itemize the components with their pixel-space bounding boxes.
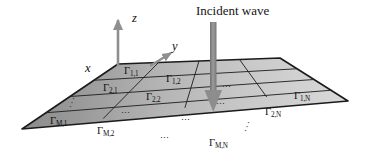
gamma-subscript-1-1: 1,1	[130, 70, 138, 78]
ellipsis-horizontal-row1-col3: ⋯	[222, 83, 232, 92]
figure-canvas: Incident wave z y x Γ1,1 Γ1,2 ⋯ Γ1,N Γ2,…	[0, 0, 366, 166]
cell-label-M-1: ΓM,1	[50, 116, 67, 127]
cell-label-2-N: Γ2,N	[265, 107, 281, 118]
gamma-subscript-M-1: M,1	[56, 120, 67, 128]
gamma-subscript-2-1: 2,1	[109, 87, 117, 95]
ellipsis-horizontal-row3-col3: ⋯	[181, 116, 191, 125]
gamma-subscript-M-N: M,N	[215, 142, 228, 150]
gamma-subscript-1-2: 1,2	[172, 78, 180, 86]
cell-label-2-2: Γ2,2	[146, 92, 160, 103]
ellipsis-horizontal-rowM-col3: ⋯	[160, 134, 170, 143]
x-axis-label: x	[85, 62, 91, 75]
cell-label-M-N: ΓM,N	[209, 138, 228, 149]
gamma-subscript-M-2: M,2	[103, 130, 114, 138]
gamma-subscript-2-N: 2,N	[271, 111, 281, 119]
cell-label-1-1: Γ1,1	[124, 66, 138, 77]
incident-wave-label: Incident wave	[196, 4, 269, 17]
diagram-svg	[0, 0, 366, 166]
z-axis-label: z	[132, 12, 137, 25]
gamma-subscript-1-N: 1,N	[300, 95, 310, 103]
cell-label-M-2: ΓM,2	[97, 126, 114, 137]
ellipsis-horizontal-row2-col3: ⋯	[216, 100, 226, 109]
cell-label-1-2: Γ1,2	[166, 74, 180, 85]
cell-label-1-N: Γ1,N	[294, 91, 310, 102]
ellipsis-horizontal-row3-col2: ⋯	[121, 109, 131, 118]
incident-arrow-shaft	[210, 22, 217, 94]
cell-label-2-1: Γ2,1	[103, 83, 117, 94]
gamma-subscript-2-2: 2,2	[152, 96, 160, 104]
y-axis-label: y	[172, 40, 178, 53]
